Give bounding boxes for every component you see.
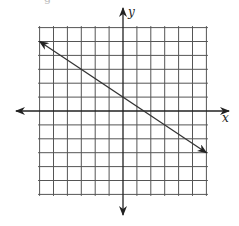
coordinate-plane: x y <box>0 0 239 226</box>
x-axis-label: x <box>222 111 229 125</box>
axes <box>16 8 229 215</box>
y-axis-label: y <box>127 5 135 19</box>
